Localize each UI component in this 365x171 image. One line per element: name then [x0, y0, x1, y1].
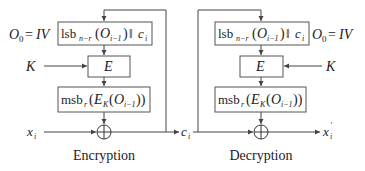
enc-input-label: x i [26, 124, 36, 141]
svg-text:i−1: i−1 [110, 34, 122, 43]
decryption-section: lsb n−r ( O i−1 ) ‖ c i O 0 = IV E K msb [193, 10, 354, 163]
svg-text:i−1: i−1 [267, 34, 279, 43]
svg-text:): ) [123, 26, 128, 42]
svg-text:=: = [328, 27, 336, 42]
enc-iv-label: O 0 = IV [9, 27, 51, 44]
svg-text:i: i [34, 132, 36, 141]
enc-xor-icon [97, 125, 111, 139]
svg-text:E: E [250, 92, 260, 107]
svg-text:msb: msb [61, 92, 83, 107]
dec-xor-icon [254, 125, 268, 139]
svg-text:i: i [188, 132, 190, 141]
svg-text:K: K [259, 100, 266, 109]
svg-text:msb: msb [218, 92, 240, 107]
svg-text:‖: ‖ [129, 26, 133, 41]
svg-text:x: x [322, 124, 329, 139]
ciphertext-label: c i [181, 124, 190, 141]
enc-key-label: K [25, 59, 36, 74]
svg-text:i: i [330, 132, 332, 141]
svg-text:): ) [280, 26, 285, 42]
svg-text:lsb: lsb [61, 26, 76, 41]
enc-caption: Encryption [73, 148, 135, 163]
svg-text:O: O [114, 92, 124, 107]
dec-cipher-label: E [255, 59, 265, 74]
svg-text:)): )) [136, 92, 146, 108]
dec-caption: Decryption [230, 148, 293, 163]
svg-text:lsb: lsb [218, 26, 233, 41]
svg-text:O: O [312, 27, 322, 42]
svg-text:0: 0 [19, 34, 24, 44]
svg-text:i: i [302, 34, 304, 43]
dec-output-label: x ′ i [322, 121, 332, 141]
ofb-diagram: O 0 = IV lsb n−r ( O i−1 ) ‖ c i E K [0, 0, 365, 171]
svg-text:IV: IV [35, 27, 51, 42]
svg-text:i−1: i−1 [124, 100, 136, 109]
svg-text:=: = [25, 27, 33, 42]
svg-text:c: c [295, 26, 301, 41]
svg-text:n−r: n−r [79, 34, 92, 43]
svg-text:O: O [271, 92, 281, 107]
svg-text:E: E [93, 92, 103, 107]
enc-cipher-label: E [103, 59, 113, 74]
svg-text:O: O [100, 26, 110, 41]
svg-text:)): )) [293, 92, 303, 108]
svg-text:n−r: n−r [236, 34, 249, 43]
svg-text:′: ′ [330, 121, 332, 130]
svg-text:IV: IV [338, 27, 354, 42]
svg-text:c: c [138, 26, 144, 41]
svg-text:O: O [9, 27, 19, 42]
svg-text:K: K [102, 100, 109, 109]
svg-text:x: x [26, 124, 33, 139]
svg-text:0: 0 [322, 34, 327, 44]
encryption-section: O 0 = IV lsb n−r ( O i−1 ) ‖ c i E K [9, 10, 179, 163]
svg-text:c: c [181, 124, 187, 139]
svg-text:i: i [145, 34, 147, 43]
svg-text:i−1: i−1 [281, 100, 293, 109]
svg-text:O: O [257, 26, 267, 41]
svg-text:‖: ‖ [286, 26, 290, 41]
dec-iv-label: O 0 = IV [312, 27, 354, 44]
dec-key-label: K [325, 59, 336, 74]
